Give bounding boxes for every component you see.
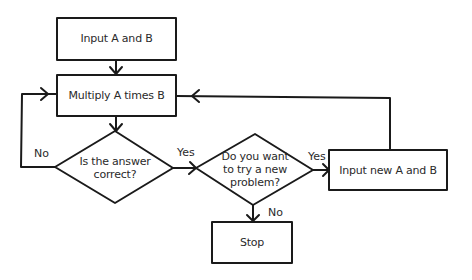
check-label: Is the answer correct?: [75, 155, 155, 181]
edge-label-check-yes: Yes: [177, 146, 195, 159]
again-label-line-1: Do you want: [215, 150, 295, 163]
edge-again-yes: [313, 164, 329, 176]
edge-label-check-no: No: [34, 147, 49, 160]
check-label-line-1: Is the answer: [75, 155, 155, 168]
input-label: Input A and B: [57, 32, 176, 45]
check-label-line-2: correct?: [75, 168, 155, 181]
edge-label-again-no: No: [268, 206, 283, 219]
edge-input-to-multiply: [110, 60, 122, 74]
again-label-line-2: to try a new: [215, 163, 295, 176]
stop-label: Stop: [212, 236, 292, 249]
edge-label-again-yes: Yes: [308, 150, 326, 163]
edge-check-yes: [173, 162, 196, 174]
edge-again-no: [247, 205, 259, 221]
edge-new-input-to-multiply: [176, 90, 390, 150]
edge-multiply-to-check: [110, 116, 122, 131]
new-input-label: Input new A and B: [329, 164, 447, 177]
multiply-label: Multiply A times B: [57, 89, 176, 102]
again-label: Do you want to try a new problem?: [215, 150, 295, 189]
again-label-line-3: problem?: [215, 176, 295, 189]
